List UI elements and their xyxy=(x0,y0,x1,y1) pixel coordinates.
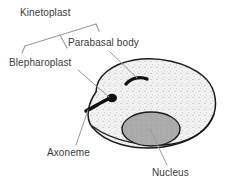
nucleus-shape xyxy=(122,112,180,146)
blepharoplast xyxy=(107,94,117,102)
label-kinetoplast: Kinetoplast xyxy=(20,7,71,18)
label-parabasal-body: Parabasal body xyxy=(68,37,139,48)
nucleus xyxy=(122,112,180,146)
figure-container: Kinetoplast Parabasal body Blepharoplast… xyxy=(0,0,229,188)
leader-axoneme xyxy=(76,110,88,145)
blepharoplast-shape xyxy=(107,94,117,102)
label-blepharoplast: Blepharoplast xyxy=(9,57,71,68)
diagram-canvas xyxy=(0,0,229,188)
label-nucleus: Nucleus xyxy=(152,167,189,178)
label-axoneme: Axoneme xyxy=(47,147,90,158)
